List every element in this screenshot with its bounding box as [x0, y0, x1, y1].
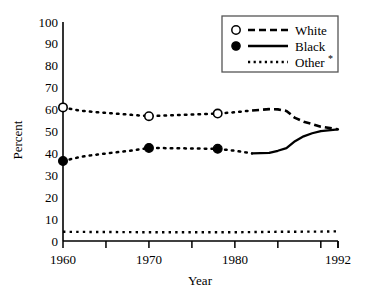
legend-label-black: Black	[295, 39, 326, 54]
chart-container: 0102030405060708090100 1960197019801992 …	[0, 0, 369, 296]
data-marker-filled-circle	[145, 144, 154, 153]
data-marker-open-circle	[213, 109, 221, 117]
data-marker-filled-circle	[213, 144, 222, 153]
y-tick-label: 70	[45, 80, 58, 95]
y-tick-label: 0	[52, 234, 59, 249]
x-tick-label: 1970	[136, 252, 162, 267]
y-tick-label: 90	[45, 36, 58, 51]
chart-legend: White Black Other *	[222, 16, 338, 72]
x-axis-title: Year	[188, 273, 213, 288]
y-tick-label: 60	[45, 102, 58, 117]
y-tick-label: 20	[45, 190, 58, 205]
x-tick-label: 1980	[222, 252, 248, 267]
y-tick-label: 50	[45, 124, 58, 139]
legend-label-white: White	[295, 23, 327, 38]
y-tick-label: 40	[45, 146, 58, 161]
data-marker-open-circle	[145, 112, 153, 120]
y-tick-label: 80	[45, 58, 58, 73]
line-chart: 0102030405060708090100 1960197019801992 …	[0, 0, 369, 296]
y-tick-label: 100	[39, 15, 59, 30]
legend-footnote-star: *	[328, 53, 333, 64]
data-marker-filled-circle	[59, 157, 68, 166]
x-tick-label: 1992	[325, 252, 351, 267]
data-marker-open-circle	[59, 103, 67, 111]
legend-label-other: Other	[295, 55, 325, 70]
y-tick-label: 10	[45, 212, 58, 227]
legend-marker-open-circle-icon	[232, 26, 240, 34]
legend-marker-filled-circle-icon	[232, 42, 240, 50]
y-tick-label: 30	[45, 168, 58, 183]
x-tick-label: 1960	[50, 252, 76, 267]
y-axis-title: Percent	[10, 120, 25, 159]
